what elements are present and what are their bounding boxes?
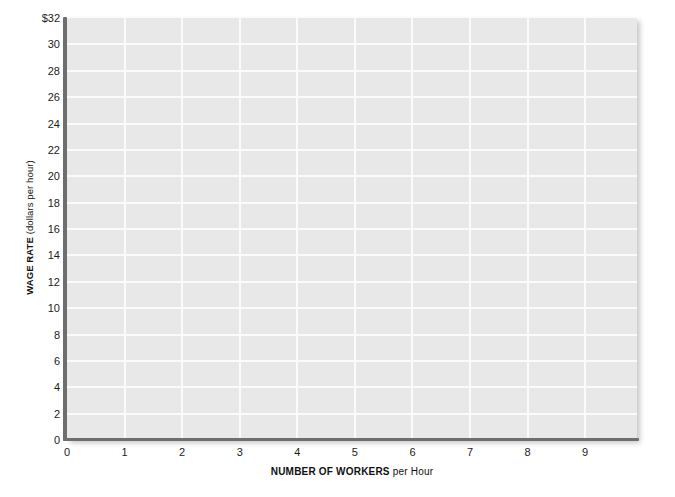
gridline-horizontal xyxy=(67,360,637,362)
vertical-gridlines xyxy=(67,18,637,440)
y-axis-tick-label: 0 xyxy=(4,435,60,446)
gridline-horizontal xyxy=(67,70,637,72)
x-axis-tick-label: 1 xyxy=(110,447,140,458)
y-axis-line xyxy=(63,17,67,441)
gridline-vertical xyxy=(527,18,529,440)
x-axis-tick-label: 5 xyxy=(340,447,370,458)
x-axis-tick-label: 6 xyxy=(397,447,427,458)
y-axis-tick-label: 30 xyxy=(4,39,60,50)
y-axis-title-strong: WAGE RATE xyxy=(24,237,35,295)
x-axis-tick-labels: 0123456789 xyxy=(0,447,675,463)
gridline-vertical xyxy=(584,18,586,440)
gridline-horizontal xyxy=(67,43,637,45)
y-axis-tick-label: 6 xyxy=(4,356,60,367)
gridline-horizontal xyxy=(67,96,637,98)
gridline-vertical xyxy=(239,18,241,440)
x-axis-tick-label: 2 xyxy=(167,447,197,458)
plot-area xyxy=(67,18,637,440)
gridline-horizontal xyxy=(67,413,637,415)
gridline-horizontal xyxy=(67,149,637,151)
x-axis-line xyxy=(63,438,639,441)
gridline-horizontal xyxy=(67,386,637,388)
gridline-horizontal xyxy=(67,254,637,256)
x-axis-tick-label: 8 xyxy=(513,447,543,458)
y-axis-tick-label: 2 xyxy=(4,409,60,420)
gridline-vertical xyxy=(124,18,126,440)
gridline-horizontal xyxy=(67,334,637,336)
gridline-horizontal xyxy=(67,228,637,230)
x-axis-tick-label: 3 xyxy=(225,447,255,458)
gridline-vertical xyxy=(181,18,183,440)
y-axis-tick-label: $32 xyxy=(4,13,60,24)
horizontal-gridlines xyxy=(67,18,637,440)
gridline-horizontal xyxy=(67,175,637,177)
wage-rate-blank-grid-chart: $32302826242220181614121086420 012345678… xyxy=(0,0,675,497)
x-axis-tick-label: 7 xyxy=(455,447,485,458)
y-axis-title: WAGE RATE (dollars per hour) xyxy=(24,123,35,333)
gridline-horizontal xyxy=(67,307,637,309)
gridline-vertical xyxy=(296,18,298,440)
x-axis-tick-label: 4 xyxy=(282,447,312,458)
y-axis-tick-label: 28 xyxy=(4,66,60,77)
x-axis-tick-label: 9 xyxy=(570,447,600,458)
gridline-vertical xyxy=(354,18,356,440)
y-axis-tick-label: 26 xyxy=(4,92,60,103)
x-axis-title: NUMBER OF WORKERS per Hour xyxy=(67,466,637,477)
gridline-vertical xyxy=(411,18,413,440)
y-axis-tick-label: 4 xyxy=(4,382,60,393)
y-axis-title-plain: (dollars per hour) xyxy=(24,160,35,237)
x-axis-title-strong: NUMBER OF WORKERS xyxy=(271,466,390,477)
x-axis-tick-label: 0 xyxy=(52,447,82,458)
gridline-horizontal xyxy=(67,202,637,204)
x-axis-title-plain: per Hour xyxy=(390,466,434,477)
gridline-horizontal xyxy=(67,281,637,283)
gridline-horizontal xyxy=(67,123,637,125)
gridline-vertical xyxy=(469,18,471,440)
